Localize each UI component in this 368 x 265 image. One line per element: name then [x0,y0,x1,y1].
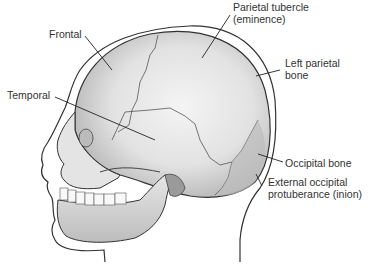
label-parietal-tubercle: Parietal tubercle (eminence) [233,1,309,25]
label-left-parietal-line1: Left parietal [285,57,340,69]
label-left-parietal-line2: bone [285,69,340,81]
label-temporal: Temporal [7,89,50,101]
label-ext-occipital: External occipital protuberance (inion) [268,176,362,200]
label-ext-occipital-line2: protuberance (inion) [268,188,362,200]
label-occipital: Occipital bone [285,157,352,169]
label-left-parietal: Left parietal bone [285,57,340,81]
label-ext-occipital-line1: External occipital [268,176,362,188]
orbit [79,129,93,147]
label-frontal: Frontal [49,28,82,40]
label-parietal-tubercle-line1: Parietal tubercle [233,1,309,13]
label-parietal-tubercle-line2: (eminence) [233,13,309,25]
